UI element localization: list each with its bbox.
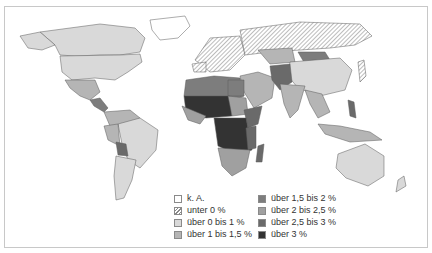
legend-column-1: k. A. unter 0 % über 0 bis 1 % über 1 bi… [174, 193, 252, 241]
legend-label: über 1,5 bis 2 % [271, 193, 336, 204]
legend-label: k. A. [187, 193, 205, 204]
legend-item-2-5-3: über 2,5 bis 3 % [258, 217, 336, 228]
swatch-icon [258, 207, 266, 215]
legend-item-1-1-5: über 1 bis 1,5 % [174, 229, 252, 240]
legend-item-0-1: über 0 bis 1 % [174, 217, 252, 228]
region-iberia [192, 62, 206, 72]
legend-item-unter-0: unter 0 % [174, 205, 252, 216]
legend-label: unter 0 % [187, 205, 226, 216]
legend-label: über 2,5 bis 3 % [271, 217, 336, 228]
region-kazakhstan [258, 48, 295, 64]
legend-column-2: über 1,5 bis 2 % über 2 bis 2,5 % über 2… [258, 193, 336, 241]
legend-label: über 0 bis 1 % [187, 217, 245, 228]
swatch-icon [258, 231, 266, 239]
swatch-icon [174, 231, 182, 239]
swatch-icon [174, 219, 182, 227]
region-usa [60, 54, 142, 80]
swatch-no-data-icon [174, 195, 182, 203]
map-legend: k. A. unter 0 % über 0 bis 1 % über 1 bi… [174, 193, 354, 241]
region-mexico [65, 80, 100, 100]
legend-item-3-plus: über 3 % [258, 229, 336, 240]
region-egypt [228, 80, 244, 96]
region-japan [358, 60, 366, 82]
region-philippines [348, 100, 356, 118]
legend-label: über 2 bis 2,5 % [271, 205, 336, 216]
legend-item-1-5-2: über 1,5 bis 2 % [258, 193, 336, 204]
region-argentina-chile [114, 156, 136, 200]
legend-item-k-a: k. A. [174, 193, 252, 204]
region-southern-africa [218, 148, 250, 176]
region-greenland [150, 16, 190, 40]
region-canada [40, 24, 145, 56]
region-indonesia [318, 124, 382, 142]
region-india [280, 84, 305, 118]
region-australia [336, 144, 384, 186]
legend-label: über 3 % [271, 229, 307, 240]
swatch-hatched-icon [174, 207, 182, 215]
region-east-africa [246, 126, 256, 150]
swatch-icon [258, 219, 266, 227]
region-madagascar [256, 144, 264, 162]
region-central-america [90, 98, 108, 112]
region-bolivia [116, 142, 128, 156]
legend-item-2-2-5: über 2 bis 2,5 % [258, 205, 336, 216]
swatch-icon [258, 195, 266, 203]
region-new-zealand [396, 176, 406, 192]
legend-label: über 1 bis 1,5 % [187, 229, 252, 240]
